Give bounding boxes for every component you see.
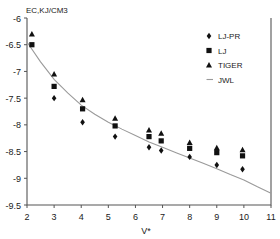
data-point-square	[159, 138, 164, 143]
data-point-triangle	[80, 97, 86, 103]
data-point-square	[52, 84, 57, 89]
data-point-triangle	[214, 145, 220, 151]
y-tick-label: -9	[13, 174, 21, 184]
data-point-diamond	[159, 147, 164, 153]
series-lj	[29, 42, 245, 158]
legend-triangle-swatch	[206, 62, 212, 68]
legend-label: LJ-PR	[218, 32, 240, 41]
data-point-triangle	[158, 130, 164, 136]
x-tick-label: 8	[187, 212, 192, 222]
data-points-layer	[29, 31, 246, 172]
x-tick-label: 6	[133, 212, 138, 222]
data-point-square	[214, 150, 219, 155]
ec-vs-vstar-scatter-chart: 234567891011-6-6.5-7-7.5-8-8.5-9-9.5 LJ-…	[0, 0, 280, 239]
y-axis-label: EC,KJ/CM3	[26, 6, 68, 15]
y-tick-label: -6.5	[5, 40, 21, 50]
data-point-triangle	[112, 115, 118, 121]
legend-item-jwl: JWL	[207, 76, 235, 85]
data-point-diamond	[147, 144, 152, 150]
y-tick-label: -7.5	[5, 94, 21, 104]
x-tick-label: 9	[214, 212, 219, 222]
data-point-square	[240, 153, 245, 158]
y-tick-label: -6	[13, 14, 21, 24]
data-point-diamond	[240, 166, 245, 172]
x-tick-label: 10	[239, 212, 249, 222]
legend-label: TIGER	[218, 61, 243, 70]
x-tick-label: 2	[24, 212, 29, 222]
data-point-triangle	[146, 127, 152, 133]
data-point-diamond	[214, 162, 219, 168]
x-tick-label: 3	[52, 212, 57, 222]
data-point-square	[113, 123, 118, 128]
data-point-triangle	[29, 31, 35, 36]
legend-label: JWL	[218, 76, 235, 85]
data-point-square	[187, 146, 192, 151]
data-point-diamond	[52, 95, 57, 101]
x-axis-label: V*	[141, 226, 151, 236]
y-tick-label: -9.5	[5, 201, 21, 211]
x-tick-label: 5	[106, 212, 111, 222]
plot-frame	[27, 18, 271, 205]
legend-diamond-swatch	[207, 33, 212, 39]
x-tick-label: 4	[79, 212, 84, 222]
legend-label: LJ	[218, 47, 226, 56]
series-tiger	[29, 31, 246, 152]
data-point-square	[29, 42, 34, 47]
data-point-triangle	[240, 147, 246, 153]
legend-item-lj: LJ	[206, 47, 226, 56]
data-point-triangle	[51, 71, 57, 77]
y-tick-label: -8.5	[5, 147, 21, 157]
y-tick-label: -8	[13, 120, 21, 130]
x-tick-label: 7	[160, 212, 165, 222]
y-tick-label: -7	[13, 67, 21, 77]
legend-item-tiger: TIGER	[206, 61, 243, 70]
data-point-square	[146, 134, 151, 139]
legend-item-lj-pr: LJ-PR	[207, 32, 241, 41]
data-point-diamond	[80, 119, 85, 125]
chart-container: 234567891011-6-6.5-7-7.5-8-8.5-9-9.5 LJ-…	[0, 0, 280, 239]
legend-square-swatch	[206, 48, 211, 53]
x-tick-label: 11	[266, 212, 275, 222]
data-point-square	[80, 106, 85, 111]
data-point-diamond	[113, 133, 118, 139]
chart-legend: LJ-PRLJTIGERJWL	[206, 32, 243, 85]
data-point-triangle	[187, 139, 193, 145]
chart-axes: 234567891011-6-6.5-7-7.5-8-8.5-9-9.5	[5, 14, 275, 223]
